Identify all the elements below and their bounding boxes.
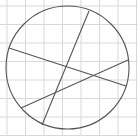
chords-group	[9, 11, 128, 125]
diagram-canvas	[0, 0, 138, 136]
chord-c	[21, 60, 128, 108]
chord-b	[42, 11, 89, 125]
circle-chords-diagram	[0, 0, 138, 136]
